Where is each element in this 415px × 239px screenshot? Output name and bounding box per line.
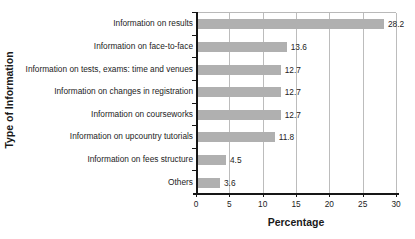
y-tick-mark xyxy=(192,103,196,104)
y-axis-title-text: Type of Information xyxy=(3,51,15,148)
x-axis-title: Percentage xyxy=(196,216,396,228)
x-tick-label: 30 xyxy=(384,199,408,209)
bar-value-label: 28.2 xyxy=(388,19,404,29)
x-tick-mark xyxy=(329,193,330,197)
x-tick-mark xyxy=(263,193,264,197)
y-tick-mark xyxy=(192,80,196,81)
bar xyxy=(196,65,281,75)
x-tick-label: 5 xyxy=(217,199,241,209)
gridline xyxy=(296,13,297,193)
x-tick-mark xyxy=(396,193,397,197)
category-label-list: Information on resultsInformation on fac… xyxy=(20,12,193,193)
bar xyxy=(196,42,287,52)
category-label: Information on changes in registration xyxy=(20,86,193,96)
y-tick-mark xyxy=(192,57,196,58)
y-axis-line xyxy=(196,12,198,193)
bar-value-label: 12.7 xyxy=(285,87,301,97)
bar xyxy=(196,132,275,142)
category-label: Others xyxy=(20,177,193,187)
x-tick-mark xyxy=(229,193,230,197)
y-tick-mark xyxy=(192,125,196,126)
x-tick-label: 20 xyxy=(317,199,341,209)
bar xyxy=(196,155,226,165)
x-tick-mark xyxy=(363,193,364,197)
category-label: Information on fees structure xyxy=(20,154,193,164)
bar xyxy=(196,178,220,188)
y-tick-mark xyxy=(192,148,196,149)
category-label: Information on upcountry tutorials xyxy=(20,131,193,141)
category-label: Information on results xyxy=(20,18,193,28)
x-tick-mark xyxy=(196,193,197,197)
bar-value-label: 12.7 xyxy=(285,110,301,120)
y-tick-mark xyxy=(192,35,196,36)
bar-value-label: 11.8 xyxy=(279,132,295,142)
bar-value-label: 12.7 xyxy=(285,65,301,75)
plot-area: 28.213.612.712.712.711.84.53.6 xyxy=(196,12,396,193)
gridline xyxy=(263,13,264,193)
x-tick-label: 15 xyxy=(284,199,308,209)
category-label: Information on courseworks xyxy=(20,109,193,119)
x-tick-label: 0 xyxy=(184,199,208,209)
x-tick-mark xyxy=(296,193,297,197)
category-label: Information on face-to-face xyxy=(20,41,193,51)
category-label: Information on tests, exams: time and ve… xyxy=(20,64,193,74)
bar-chart: Type of Information Information on resul… xyxy=(0,0,415,239)
y-axis-title: Type of Information xyxy=(0,0,18,200)
bar-value-label: 13.6 xyxy=(291,42,307,52)
bar xyxy=(196,19,384,29)
gridline xyxy=(229,13,230,193)
gridline xyxy=(329,13,330,193)
x-tick-label: 10 xyxy=(251,199,275,209)
bar xyxy=(196,87,281,97)
y-tick-mark xyxy=(192,170,196,171)
y-tick-mark xyxy=(192,12,196,13)
gridline xyxy=(396,13,397,193)
bar-value-label: 3.6 xyxy=(224,178,236,188)
bar xyxy=(196,110,281,120)
gridline xyxy=(363,13,364,193)
x-tick-label: 25 xyxy=(351,199,375,209)
bar-value-label: 4.5 xyxy=(230,155,242,165)
